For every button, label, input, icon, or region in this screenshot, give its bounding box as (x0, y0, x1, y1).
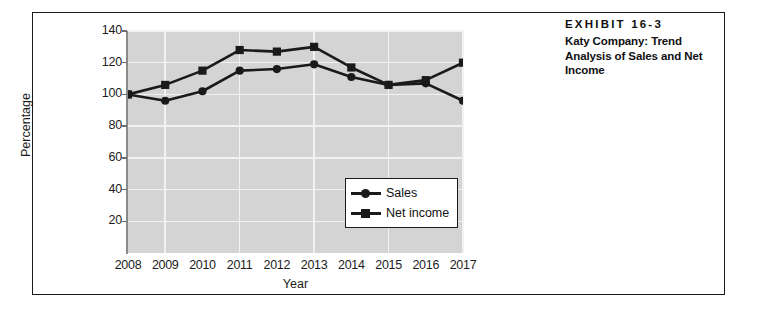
data-point-marker (347, 63, 355, 71)
y-tick-label: 20 (88, 213, 122, 227)
exhibit-caption: EXHIBIT 16-3 Katy Company: Trend Analysi… (565, 18, 723, 78)
data-point-marker (310, 43, 318, 51)
y-tick-label: 60 (88, 150, 122, 164)
x-tick-label: 2009 (145, 258, 185, 272)
y-tick-label: 140 (88, 23, 122, 37)
y-tick-mark (122, 221, 127, 223)
y-tick-mark (122, 125, 127, 127)
exhibit-number-label: EXHIBIT 16-3 (565, 18, 723, 30)
series-line-net-income (128, 47, 463, 95)
trend-analysis-chart: 20406080100120140 Percentage 20082009201… (0, 0, 500, 295)
data-point-marker (273, 65, 281, 73)
y-tick-label: 80 (88, 118, 122, 132)
legend-label-sales: Sales (386, 186, 417, 200)
data-point-marker (310, 60, 318, 68)
x-tick-label: 2011 (220, 258, 260, 272)
x-axis-title: Year (128, 277, 463, 291)
x-axis-tick-labels: 2008200920102011201220132014201520162017 (128, 258, 463, 276)
x-tick-label: 2012 (257, 258, 297, 272)
y-tick-mark (122, 30, 127, 32)
x-tick-label: 2017 (443, 258, 483, 272)
data-point-marker (161, 97, 169, 105)
legend-item-net-income: Net income (351, 203, 449, 223)
data-point-marker (128, 90, 132, 98)
y-axis-title: Percentage (19, 75, 33, 175)
data-point-marker (198, 87, 206, 95)
data-point-marker (459, 59, 463, 67)
x-tick-label: 2013 (294, 258, 334, 272)
y-tick-mark (122, 62, 127, 64)
x-tick-label: 2010 (182, 258, 222, 272)
x-tick-label: 2016 (406, 258, 446, 272)
circle-marker-icon (351, 186, 381, 200)
x-tick-label: 2014 (331, 258, 371, 272)
data-point-marker (198, 67, 206, 75)
y-tick-label: 100 (88, 86, 122, 100)
data-point-marker (236, 67, 244, 75)
data-point-marker (273, 48, 281, 56)
exhibit-title: Katy Company: Trend Analysis of Sales an… (565, 34, 723, 78)
y-tick-label: 40 (88, 182, 122, 196)
square-marker-icon (351, 206, 381, 220)
y-tick-label: 120 (88, 55, 122, 69)
y-axis-tick-labels: 20406080100120140 (84, 0, 122, 295)
data-point-marker (384, 81, 392, 89)
data-point-marker (347, 73, 355, 81)
x-tick-label: 2015 (369, 258, 409, 272)
y-tick-mark (122, 94, 127, 96)
y-tick-mark (122, 189, 127, 191)
chart-legend: Sales Net income (345, 178, 458, 228)
x-tick-label: 2008 (108, 258, 148, 272)
data-point-marker (236, 46, 244, 54)
y-tick-mark (122, 157, 127, 159)
legend-label-net-income: Net income (386, 206, 449, 220)
data-point-marker (422, 76, 430, 84)
data-point-marker (161, 81, 169, 89)
legend-item-sales: Sales (351, 183, 449, 203)
